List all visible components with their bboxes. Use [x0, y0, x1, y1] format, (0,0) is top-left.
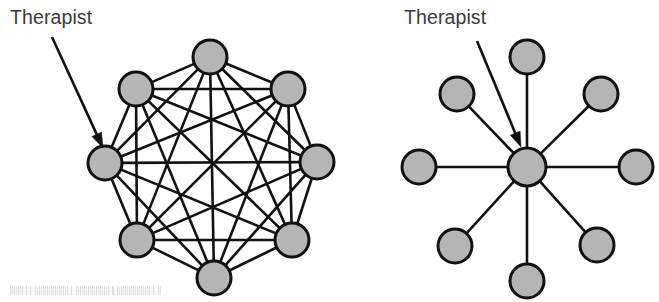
right-star-network-group: [402, 40, 653, 298]
therapist-node[interactable]: [508, 148, 546, 186]
member-node[interactable]: [402, 150, 436, 184]
therapist-node[interactable]: [88, 146, 122, 180]
figure-canvas: TherapistTherapist: [0, 0, 659, 302]
member-node[interactable]: [275, 223, 309, 257]
network-edge: [288, 105, 291, 224]
left-therapist-arrow-shaft: [52, 37, 98, 137]
member-node[interactable]: [619, 150, 653, 184]
network-spoke: [539, 180, 586, 233]
member-node[interactable]: [510, 40, 544, 74]
right-therapist-label: Therapist: [404, 6, 487, 28]
member-node[interactable]: [120, 223, 154, 257]
left-therapist-arrow-head: [92, 132, 103, 148]
right-therapist-arrow-head: [510, 131, 521, 147]
network-edge: [228, 247, 277, 271]
diagram-labels-group: TherapistTherapist: [10, 6, 487, 28]
network-edge: [151, 247, 199, 271]
member-node[interactable]: [440, 77, 474, 111]
network-spoke: [540, 105, 590, 154]
left-therapist-label: Therapist: [10, 6, 93, 28]
network-edge: [111, 178, 131, 225]
left-complete-network-group: [52, 37, 334, 295]
member-node[interactable]: [119, 72, 153, 106]
network-spoke: [466, 180, 515, 234]
member-node[interactable]: [300, 145, 334, 179]
member-node[interactable]: [197, 261, 231, 295]
network-edge: [297, 177, 312, 225]
network-diagram-svg: TherapistTherapist: [0, 0, 659, 302]
member-node[interactable]: [580, 228, 614, 262]
member-node[interactable]: [584, 77, 618, 111]
therapist-node[interactable]: [193, 40, 227, 74]
member-node[interactable]: [438, 229, 472, 263]
member-node[interactable]: [510, 264, 544, 298]
scan-artifact-bar: [10, 286, 162, 295]
member-node[interactable]: [271, 72, 305, 106]
network-edge: [136, 105, 137, 224]
